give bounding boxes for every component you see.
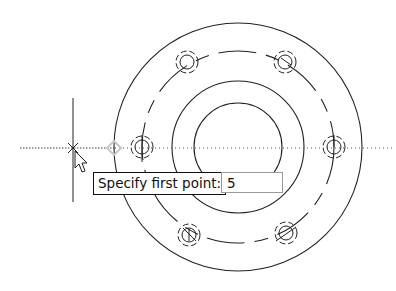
bolt-hole-left — [131, 135, 153, 162]
arrow-cursor-icon — [75, 151, 87, 172]
bolt-circle — [142, 51, 334, 243]
bolt-hole-bottom-left — [178, 224, 200, 246]
bolt-hole-top-left — [176, 51, 198, 73]
drawing-canvas[interactable] — [0, 0, 396, 291]
dynamic-input-prompt: Specify first point: — [93, 172, 226, 195]
bolt-hole-top-right — [274, 51, 296, 73]
crosshair-icon — [68, 98, 78, 202]
outer-circle — [114, 23, 362, 271]
flange-drawing — [114, 23, 362, 271]
dynamic-input-field[interactable] — [221, 172, 283, 193]
